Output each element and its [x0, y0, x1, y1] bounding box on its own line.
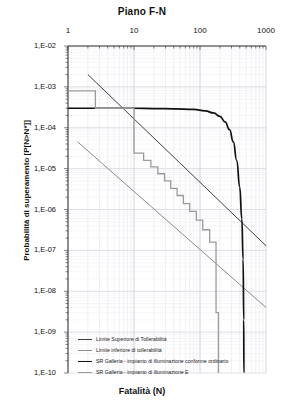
- legend-item-2: Limite inferiore di tollerabilità: [78, 346, 278, 355]
- x-axis-title: Fatalità (N): [0, 386, 284, 396]
- legend-item-label: SR Galleria - impianto di illuminazione …: [96, 368, 189, 377]
- legend-swatch-line-icon: [78, 339, 92, 340]
- legend-item-label: Limite inferiore di tollerabilità: [96, 346, 162, 355]
- chart-legend: Limite Superiore di TollerabilitàLimite …: [78, 335, 278, 379]
- legend-item-label: Limite Superiore di Tollerabilità: [96, 335, 167, 344]
- legend-swatch-line-icon: [78, 350, 92, 351]
- y-axis-title: Probabilità di superamento [P[N>N*]]: [22, 81, 31, 301]
- legend-item-1: Limite Superiore di Tollerabilità: [78, 335, 278, 344]
- legend-swatch-line-icon: [78, 372, 92, 373]
- legend-item-label: SR Galleria - impianto di illuminazione …: [96, 357, 228, 366]
- fn-curve-chart: Piano F-N 1101001000 1,E-021,E-031,E-041…: [0, 0, 284, 411]
- legend-item-3: SR Galleria - impianto di illuminazione …: [78, 357, 278, 366]
- legend-swatch-line-icon: [78, 361, 92, 362]
- legend-item-4: SR Galleria - impianto di illuminazione …: [78, 368, 278, 377]
